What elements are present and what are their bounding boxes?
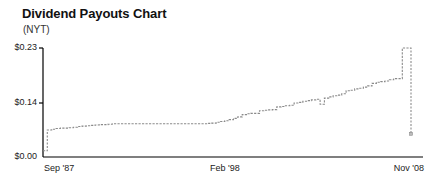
chart-container: Dividend Payouts Chart (NYT) $0.23$0.14$… xyxy=(0,0,429,191)
x-axis-tick-label: Feb '98 xyxy=(210,164,240,173)
x-axis-tick-label: Nov '08 xyxy=(394,164,424,173)
y-axis-tick-label: $0.14 xyxy=(3,98,37,107)
y-axis-tick-label: $0.23 xyxy=(3,43,37,52)
series-end-marker xyxy=(410,132,413,135)
x-axis-tick-label: Sep '87 xyxy=(44,164,74,173)
data-series-line xyxy=(43,48,411,151)
y-axis-tick-label: $0.00 xyxy=(3,152,37,161)
